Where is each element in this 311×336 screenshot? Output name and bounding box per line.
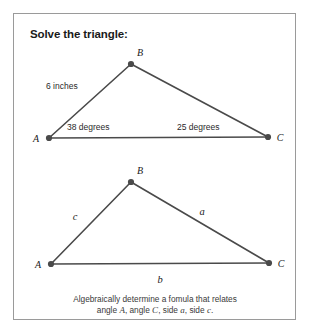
bottom-triangle-group: A B C c a b <box>34 165 285 285</box>
caption-line2-mid2: , side <box>158 305 180 315</box>
bottom-triangle-vertex-c-label: C <box>278 258 285 269</box>
bottom-triangle-side-c-label: c <box>73 211 78 222</box>
top-triangle-side-ab-label: 6 inches <box>46 81 78 91</box>
caption-line2-pre: angle <box>97 305 120 315</box>
caption-block: Algebraically determine a fomula that re… <box>73 294 237 315</box>
caption-line2-mid1: , angle <box>125 305 152 315</box>
top-triangle-vertex-b-dot <box>128 61 134 67</box>
bottom-triangle-side-a-label: a <box>199 206 204 217</box>
top-triangle-vertex-a-dot <box>46 135 52 141</box>
top-triangle-angle-c-label: 25 degrees <box>177 122 220 132</box>
top-triangle-vertex-b-label: B <box>137 47 143 58</box>
figure-panel: Solve the triangle: A B C 6 inches 38 de… <box>13 13 296 320</box>
caption-line2-end: . <box>211 305 213 315</box>
top-triangle-vertex-a-label: A <box>32 133 40 144</box>
top-triangle-angle-a-label: 38 degrees <box>67 122 110 132</box>
caption-line-2: angle A, angle C, side a, side c. <box>97 305 213 315</box>
bottom-triangle-edge-ab <box>51 182 131 264</box>
bottom-triangle-side-b-label: b <box>157 274 162 285</box>
caption-line2-mid3: , side <box>185 305 207 315</box>
bottom-triangle-vertex-c-dot <box>266 260 272 266</box>
bottom-triangle-edge-bc <box>131 182 269 263</box>
top-triangle-edge-ac <box>49 137 268 138</box>
caption-line-1: Algebraically determine a fomula that re… <box>73 294 237 304</box>
top-triangle-vertex-c-dot <box>265 134 271 140</box>
triangle-diagram: A B C 6 inches 38 degrees 25 degrees A B… <box>14 14 297 321</box>
bottom-triangle-vertex-a-label: A <box>34 259 42 270</box>
top-triangle-group: A B C 6 inches 38 degrees 25 degrees <box>32 47 284 144</box>
top-triangle-vertex-c-label: C <box>277 132 284 143</box>
bottom-triangle-edge-ac <box>51 263 269 264</box>
bottom-triangle-vertex-b-dot <box>128 179 134 185</box>
bottom-triangle-vertex-b-label: B <box>137 165 143 176</box>
bottom-triangle-vertex-a-dot <box>48 261 54 267</box>
